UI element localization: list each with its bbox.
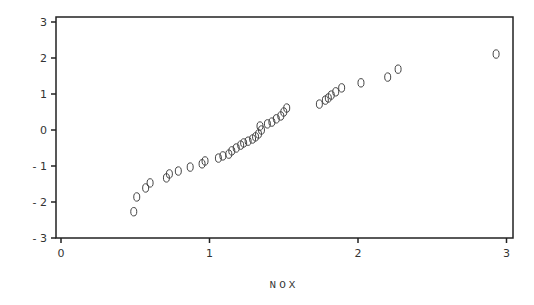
- scatter-chart: 3210- 1- 2- 3 0123 NOX: [0, 0, 534, 305]
- data-point: [316, 100, 322, 108]
- data-point: [131, 208, 137, 216]
- data-point: [385, 73, 391, 81]
- y-tick-label: 3: [40, 16, 47, 29]
- x-tick-label: 1: [206, 247, 213, 260]
- data-point: [175, 167, 181, 175]
- data-point: [147, 179, 153, 187]
- y-tick-label: - 3: [33, 232, 47, 245]
- plot-frame: [56, 17, 513, 238]
- y-axis: 3210- 1- 2- 3: [33, 16, 56, 245]
- x-tick-label: 3: [503, 247, 510, 260]
- y-tick-label: - 1: [33, 160, 47, 173]
- y-tick-label: 1: [40, 88, 47, 101]
- x-tick-label: 0: [58, 247, 65, 260]
- x-axis-label: NOX: [270, 279, 299, 291]
- x-axis: 0123: [58, 238, 511, 260]
- y-tick-label: - 2: [33, 196, 47, 209]
- data-point: [358, 79, 364, 87]
- data-point: [339, 84, 345, 92]
- chart-canvas: 3210- 1- 2- 3 0123 NOX: [0, 0, 534, 305]
- data-point: [493, 50, 499, 58]
- data-point: [395, 65, 401, 73]
- data-points: [131, 50, 499, 216]
- data-point: [187, 163, 193, 171]
- x-tick-label: 2: [355, 247, 362, 260]
- data-point: [134, 193, 140, 201]
- y-tick-label: 0: [40, 124, 47, 137]
- y-tick-label: 2: [40, 52, 47, 65]
